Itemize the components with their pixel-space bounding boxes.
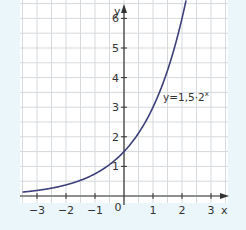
exponential-chart: xy −3−2−10123123456 y=1,5·2x [0,0,246,230]
y-tick-label: 5 [112,42,119,55]
y-tick-label: 4 [112,72,119,85]
x-tick-label: −1 [87,204,103,217]
x-tick-label: 3 [208,204,215,217]
x-tick-label: −3 [29,204,45,217]
x-tick-label: 2 [179,204,186,217]
y-tick-label: 3 [112,101,119,114]
curve-label: y=1,5·2x [163,90,209,103]
y-tick-label: 6 [112,12,119,25]
x-tick-label: 0 [115,201,122,214]
y-tick-label: 2 [112,131,119,144]
x-tick-label: 1 [150,204,157,217]
x-tick-label: −2 [58,204,74,217]
x-axis-label: x [221,204,228,217]
